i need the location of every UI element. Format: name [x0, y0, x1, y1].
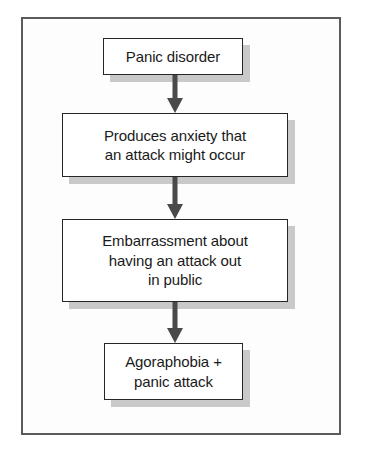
- down-arrow-icon: [165, 301, 185, 344]
- flow-node-embarrassment: Embarrassment about having an attack out…: [62, 219, 288, 302]
- flowchart-figure: Panic disorder Produces anxiety that an …: [0, 0, 365, 466]
- flow-node-label: Embarrassment about having an attack out…: [63, 231, 287, 290]
- flow-node-produces-anxiety: Produces anxiety that an attack might oc…: [62, 113, 288, 177]
- flow-node-panic-disorder: Panic disorder: [103, 38, 243, 75]
- flow-node-label: Agoraphobia + panic attack: [105, 352, 242, 391]
- flow-node-label: Produces anxiety that an attack might oc…: [63, 126, 287, 165]
- flow-node-agoraphobia: Agoraphobia + panic attack: [104, 343, 243, 400]
- down-arrow-icon: [165, 74, 185, 114]
- down-arrow-icon: [165, 176, 185, 220]
- flow-node-label: Panic disorder: [104, 47, 242, 67]
